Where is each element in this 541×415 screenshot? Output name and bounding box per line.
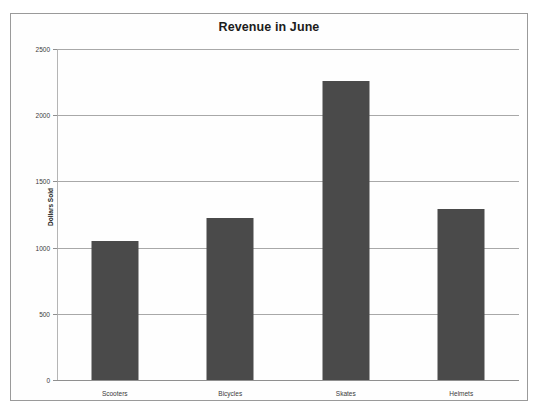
- gridline-0: [57, 380, 519, 381]
- bar-slot-scooters: [57, 49, 173, 380]
- x-tick-label-skates: Skates: [336, 390, 356, 397]
- bar-skates[interactable]: [322, 81, 369, 380]
- x-tick-label-bicycles: Bicycles: [218, 390, 242, 397]
- y-tick-label-1500: 1500: [36, 178, 50, 185]
- bars-layer: [57, 49, 519, 380]
- y-tick-label-1000: 1000: [36, 244, 50, 251]
- y-tick-label-2000: 2000: [36, 112, 50, 119]
- x-tick-label-scooters: Scooters: [102, 390, 128, 397]
- bar-scooters[interactable]: [91, 241, 138, 380]
- x-tick-label-helmets: Helmets: [449, 390, 473, 397]
- bar-slot-helmets: [404, 49, 520, 380]
- bar-helmets[interactable]: [438, 209, 485, 380]
- y-tick-label-500: 500: [39, 310, 50, 317]
- y-tick-label-0: 0: [46, 377, 50, 384]
- chart-frame: Revenue in June Dollars Sold 05001000150…: [10, 13, 528, 401]
- bar-bicycles[interactable]: [207, 218, 254, 380]
- plot-area: 05001000150020002500 ScootersBicyclesSka…: [57, 49, 519, 380]
- chart-title: Revenue in June: [11, 20, 527, 34]
- y-tick-label-2500: 2500: [36, 46, 50, 53]
- bar-slot-bicycles: [173, 49, 289, 380]
- y-tick-mark-0: [53, 380, 57, 381]
- bar-slot-skates: [288, 49, 404, 380]
- y-axis-title: Dollars Sold: [47, 188, 54, 226]
